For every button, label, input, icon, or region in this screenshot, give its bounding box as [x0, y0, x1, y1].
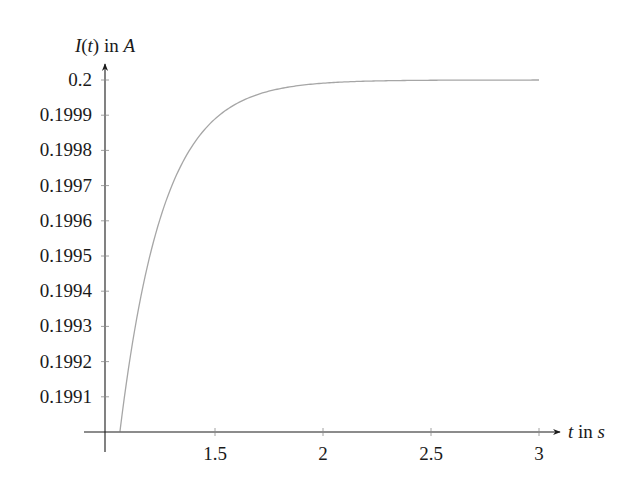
x-tick-label: 2 [318, 443, 328, 464]
y-tick-label: 0.1999 [40, 104, 92, 125]
y-tick-label: 0.1992 [40, 351, 92, 372]
y-tick-label: 0.1998 [40, 139, 92, 160]
y-tick-label: 0.2 [68, 69, 92, 90]
x-tick-label: 1.5 [203, 443, 227, 464]
x-axis-ticks: 1.522.53 [203, 428, 544, 464]
y-axis-ticks: 0.19910.19920.19930.19940.19950.19960.19… [40, 69, 109, 407]
x-tick-label: 3 [534, 443, 544, 464]
current-vs-time-chart: 1.522.53 0.19910.19920.19930.19940.19950… [0, 0, 644, 497]
x-axis-label: t in s [568, 421, 605, 442]
y-tick-label: 0.1991 [40, 386, 92, 407]
y-tick-label: 0.1997 [40, 175, 92, 196]
y-tick-label: 0.1995 [40, 245, 92, 266]
x-tick-label: 2.5 [419, 443, 443, 464]
current-curve [120, 80, 539, 431]
y-axis-label: I(t) in A [74, 35, 136, 57]
y-tick-label: 0.1994 [40, 280, 93, 301]
y-tick-label: 0.1993 [40, 315, 92, 336]
y-tick-label: 0.1996 [40, 210, 92, 231]
